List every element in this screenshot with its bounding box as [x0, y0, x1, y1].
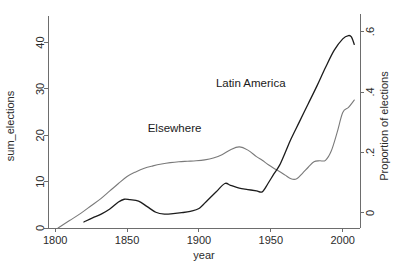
- line-chart: 0102030400.2.4.618001850190019502000 Lat…: [0, 0, 400, 266]
- y-axis-right-tick-label: .6: [364, 27, 376, 36]
- series-annotation-elsewhere: Elsewhere: [148, 122, 202, 134]
- x-axis-tick-label: 1850: [115, 234, 139, 246]
- y-axis-left-tick-label: 20: [34, 129, 46, 141]
- y-axis-left-tick-label: 10: [34, 176, 46, 188]
- x-axis-tick-label: 2000: [331, 234, 355, 246]
- x-axis-tick-label: 1900: [187, 234, 211, 246]
- x-axis-tick-label: 1800: [43, 234, 67, 246]
- x-axis-tick-label: 1950: [259, 234, 283, 246]
- y-axis-right-tick-label: 0: [364, 210, 376, 216]
- y-axis-left-tick-label: 30: [34, 83, 46, 95]
- y-axis-right-tick-label: .2: [364, 148, 376, 157]
- x-axis-title: year: [193, 249, 215, 261]
- y-axis-left-tick-label: 0: [34, 225, 46, 231]
- y-axis-left-title: sum_elections: [4, 90, 16, 161]
- y-axis-left-tick-label: 40: [34, 36, 46, 48]
- y-axis-right-tick-label: .4: [364, 87, 376, 96]
- y-axis-right-title: Proportion of elections: [378, 71, 390, 181]
- chart-container: 0102030400.2.4.618001850190019502000 Lat…: [0, 0, 400, 266]
- series-annotation-latin-america: Latin America: [216, 77, 286, 89]
